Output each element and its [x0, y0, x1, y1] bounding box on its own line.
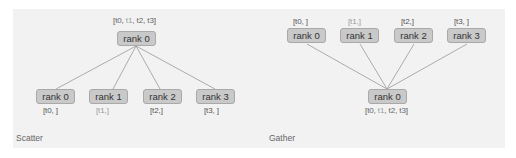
scatter-child-node-0: rank 0 — [36, 89, 75, 104]
gather-source-data-1: [t1,] — [348, 17, 361, 26]
gather-root-data: [t0, t1, t2, t3] — [365, 106, 408, 115]
gather-source-node-0: rank 0 — [287, 28, 326, 43]
scatter-child-node-3: rank 3 — [196, 89, 235, 104]
scatter-child-node-1: rank 1 — [89, 89, 128, 104]
gather-source-data-3: [t3, ] — [454, 17, 469, 26]
edge-gather-2 — [387, 44, 414, 89]
gather-source-node-3: rank 3 — [447, 28, 486, 43]
scatter-root-node: rank 0 — [117, 31, 156, 46]
scatter-child-node-2: rank 2 — [143, 89, 182, 104]
scatter-child-data-0: [t0, ] — [43, 106, 58, 115]
gather-source-node-1: rank 1 — [340, 28, 379, 43]
gather-source-node-2: rank 2 — [394, 28, 433, 43]
scatter-caption: Scatter — [16, 133, 43, 143]
gather-root-node: rank 0 — [368, 89, 407, 104]
edge-scatter-0 — [56, 46, 136, 89]
scatter-child-data-3: [t3, ] — [204, 106, 219, 115]
bracket: ] — [406, 106, 408, 115]
scatter-child-data-2: [t2,] — [150, 106, 163, 115]
bracket: ] — [154, 16, 156, 25]
edge-gather-3 — [387, 44, 467, 89]
edges — [0, 0, 516, 158]
gather-caption: Gather — [269, 133, 295, 143]
gather-source-data-0: [t0, ] — [293, 17, 308, 26]
gather-source-data-2: [t2,] — [401, 17, 414, 26]
edge-gather-1 — [360, 44, 387, 89]
scatter-child-data-1: [t1,] — [96, 106, 109, 115]
scatter-root-data: [t0, t1, t2, t3] — [113, 16, 156, 25]
edge-gather-0 — [307, 44, 387, 89]
